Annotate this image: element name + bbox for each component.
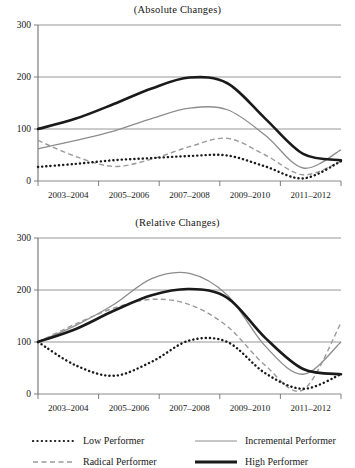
x-tick-label-1: 2005–2006 [109,403,150,413]
x-tick-label-4: 2011–2012 [291,403,331,413]
series-line-radical-performer [38,299,341,391]
legend-label-incremental-performer: Incremental Performer [245,435,336,446]
panel-relative-changes: (Relative Changes) 01002003002003–200420… [0,213,355,426]
panel-absolute-changes: (Absolute Changes) 01002003002003–200420… [0,0,355,213]
legend-label-high-performer: High Performer [245,456,308,467]
x-tick-label-2: 2007–2008 [169,190,210,200]
legend-swatch-solid-thick-icon [194,457,238,467]
y-tick-label-300: 300 [17,20,32,30]
series-line-high-performer [38,77,341,160]
y-tick-label-0: 0 [26,389,31,399]
x-tick-label-4: 2011–2012 [291,190,331,200]
figure-two-line-charts: (Absolute Changes) 01002003002003–200420… [0,0,355,468]
x-tick-label-0: 2003–2004 [48,190,89,200]
series-line-incremental-performer [38,272,341,374]
legend-item-radical-performer: Radical Performer [32,456,182,467]
chart-legend: Low Performer Incremental Performer Radi… [0,430,355,468]
x-tick-label-0: 2003–2004 [48,403,89,413]
panel-title-relative: (Relative Changes) [0,213,355,230]
plot-area-absolute: 01002003002003–20042005–20062007–2008200… [0,17,355,213]
chart-svg-absolute: 01002003002003–20042005–20062007–2008200… [0,17,355,213]
series-line-low-performer [38,155,341,179]
y-tick-label-200: 200 [17,285,32,295]
y-tick-label-100: 100 [17,124,32,134]
legend-label-radical-performer: Radical Performer [83,456,157,467]
legend-item-incremental-performer: Incremental Performer [194,435,355,446]
y-tick-label-300: 300 [17,233,32,243]
x-tick-label-2: 2007–2008 [169,403,210,413]
legend-swatch-dotted-icon [32,436,76,446]
y-tick-label-200: 200 [17,72,32,82]
legend-label-low-performer: Low Performer [83,435,144,446]
x-tick-label-1: 2005–2006 [109,190,150,200]
legend-item-high-performer: High Performer [194,456,355,467]
legend-swatch-solid-thin-icon [194,436,238,446]
x-tick-label-3: 2009–2010 [230,190,271,200]
plot-area-relative: 01002003002003–20042005–20062007–2008200… [0,230,355,426]
chart-svg-relative: 01002003002003–20042005–20062007–2008200… [0,230,355,426]
y-tick-label-100: 100 [17,337,32,347]
series-line-high-performer [38,289,341,374]
panel-title-absolute: (Absolute Changes) [0,0,355,17]
y-tick-label-0: 0 [26,176,31,186]
legend-swatch-dashed-icon [32,457,76,467]
x-tick-label-3: 2009–2010 [230,403,271,413]
legend-item-low-performer: Low Performer [32,435,182,446]
